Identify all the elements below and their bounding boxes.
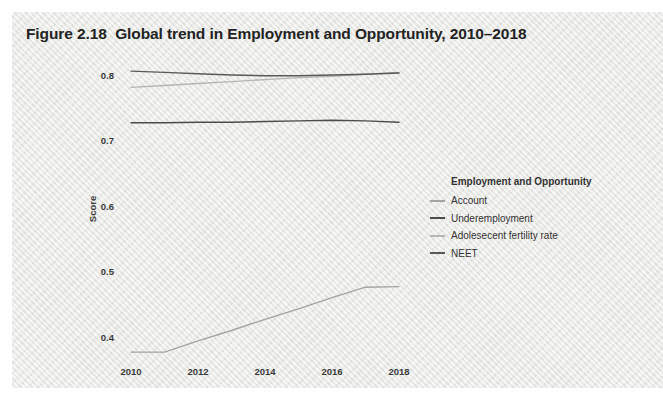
legend-item-label: Underemployment <box>451 213 533 224</box>
legend-title: Employment and Opportunity <box>451 173 658 191</box>
x-tick-label: 2016 <box>310 366 354 377</box>
legend-item: Adolesecent fertility rate <box>430 227 658 245</box>
y-tick-label: 0.8 <box>74 70 114 81</box>
legend-marker-line <box>430 252 445 254</box>
legend: Employment and Opportunity AccountUndere… <box>430 173 658 262</box>
x-tick-label: 2018 <box>377 366 421 377</box>
series-line-account <box>131 287 399 353</box>
legend-item: Account <box>430 192 658 210</box>
series-line-underemployment <box>131 120 399 123</box>
y-tick-label: 0.6 <box>74 201 114 212</box>
x-tick-label: 2010 <box>109 366 153 377</box>
legend-item: Underemployment <box>430 210 658 228</box>
x-tick-label: 2014 <box>243 366 287 377</box>
x-tick-label: 2012 <box>176 366 220 377</box>
y-tick-label: 0.5 <box>74 266 114 277</box>
y-tick-label: 0.7 <box>74 135 114 146</box>
series-line-neet <box>131 71 399 76</box>
legend-marker-line <box>430 235 445 237</box>
scanned-book-page: Figure 2.18 Global trend in Employment a… <box>0 0 663 410</box>
legend-item-label: Adolesecent fertility rate <box>451 230 558 241</box>
y-tick-label: 0.4 <box>74 332 114 343</box>
legend-items: AccountUnderemploymentAdolesecent fertil… <box>430 192 658 262</box>
legend-marker-line <box>430 200 445 202</box>
legend-item-label: NEET <box>451 248 478 259</box>
legend-item-label: Account <box>451 195 487 206</box>
legend-marker-line <box>430 217 445 219</box>
legend-item: NEET <box>430 245 658 263</box>
